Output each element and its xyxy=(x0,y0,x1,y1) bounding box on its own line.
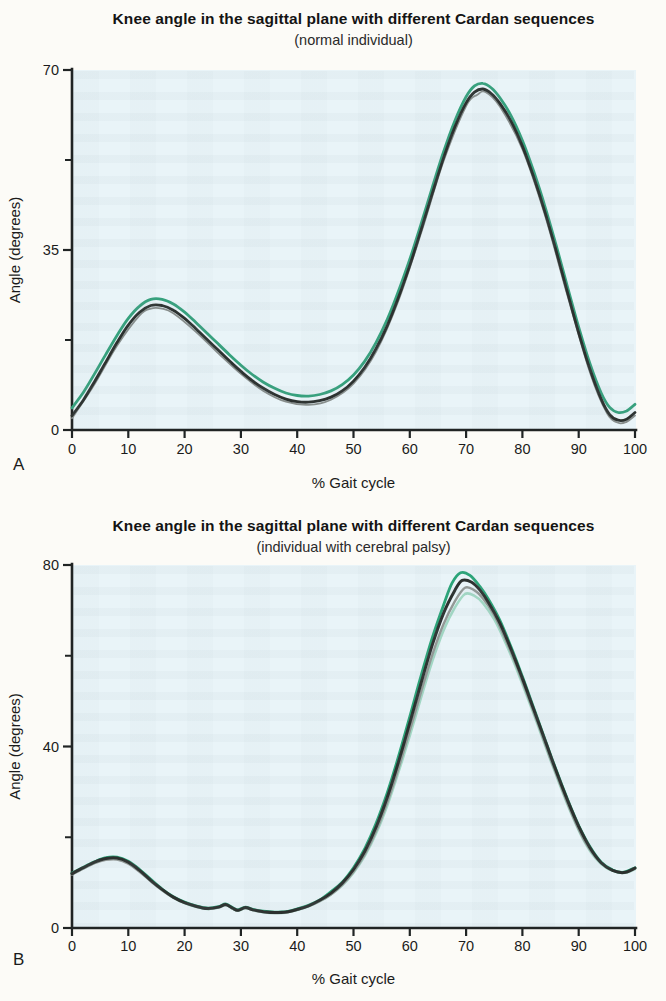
chart-b-plot: 040800102030405060708090100% Gait cycleA… xyxy=(0,550,666,1001)
y-axis-tick-label: 0 xyxy=(51,422,59,438)
x-axis-tick-label: 0 xyxy=(68,441,76,457)
x-axis-tick-label: 10 xyxy=(120,441,136,457)
x-axis-tick-label: 20 xyxy=(177,938,193,954)
y-axis-title: Angle (degrees) xyxy=(6,693,23,800)
chart-b-title: Knee angle in the sagittal plane with di… xyxy=(40,517,666,535)
x-axis-tick-label: 30 xyxy=(233,938,249,954)
x-axis-tick-label: 10 xyxy=(120,938,136,954)
x-axis-tick-label: 80 xyxy=(514,938,530,954)
chart-a-plot: 035700102030405060708090100% Gait cycleA… xyxy=(0,55,666,505)
x-axis-tick-label: 70 xyxy=(458,938,474,954)
y-axis-tick-label: 40 xyxy=(43,739,59,755)
x-axis-tick-label: 40 xyxy=(289,938,305,954)
x-axis-tick-label: 100 xyxy=(623,441,647,457)
x-axis-tick-label: 80 xyxy=(514,441,530,457)
x-axis-tick-label: 90 xyxy=(571,938,587,954)
plot-area-background xyxy=(73,70,636,430)
x-axis-title: % Gait cycle xyxy=(312,474,395,491)
x-axis-title: % Gait cycle xyxy=(312,970,395,987)
x-axis-tick-label: 40 xyxy=(289,441,305,457)
plot-area-background xyxy=(73,565,636,928)
x-axis-tick-label: 50 xyxy=(345,441,361,457)
y-axis-tick-label: 70 xyxy=(43,62,59,78)
y-axis-tick-label: 0 xyxy=(51,920,59,936)
x-axis-tick-label: 60 xyxy=(402,938,418,954)
y-axis-tick-label: 35 xyxy=(43,242,59,258)
x-axis-tick-label: 50 xyxy=(345,938,361,954)
panel-b-label: B xyxy=(13,950,24,970)
chart-a-title: Knee angle in the sagittal plane with di… xyxy=(40,10,666,28)
scanned-figure-page: Knee angle in the sagittal plane with di… xyxy=(0,0,666,1001)
x-axis-tick-label: 100 xyxy=(623,938,647,954)
x-axis-tick-label: 20 xyxy=(177,441,193,457)
x-axis-tick-label: 70 xyxy=(458,441,474,457)
x-axis-tick-label: 0 xyxy=(68,938,76,954)
y-axis-tick-label: 80 xyxy=(43,557,59,573)
y-axis-title: Angle (degrees) xyxy=(6,197,23,304)
x-axis-tick-label: 60 xyxy=(402,441,418,457)
chart-a-subtitle: (normal individual) xyxy=(40,32,666,48)
panel-a-label: A xyxy=(13,455,24,475)
x-axis-tick-label: 90 xyxy=(571,441,587,457)
x-axis-tick-label: 30 xyxy=(233,441,249,457)
